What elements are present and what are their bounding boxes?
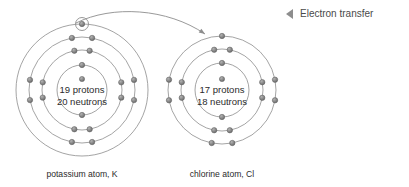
electron-potassium-shell3-2 [89,35,94,40]
nucleus-dot-chlorine [219,76,224,81]
nucleus-dot-potassium [79,76,84,81]
legend-label: Electron transfer [300,9,373,19]
electron-chlorine-shell3-6 [166,98,171,103]
electron-chlorine-shell1-2 [219,114,224,119]
electron-chlorine-shell3-1 [219,33,224,38]
electron-chlorine-shell3-2 [272,77,277,82]
diagram-canvas: 19 protons20 neutronspotassium atom, K17… [0,0,409,187]
legend-electron-transfer: Electron transfer [286,9,373,19]
left-triangle-icon [286,9,293,19]
electron-potassium-shell2-6 [72,127,77,132]
electron-chlorine-shell3-7 [166,77,171,82]
electron-potassium-shell2-3 [119,80,124,85]
electron-potassium-shell3-7 [27,97,32,102]
electron-transfer-arrow [76,12,205,34]
nucleus-protons-potassium: 19 protons [60,84,105,95]
electron-chlorine-shell1-1 [219,60,224,65]
electron-chlorine-shell3-4 [230,140,235,145]
electron-potassium-shell2-8 [40,80,45,85]
electron-potassium-shell3-3 [131,77,136,82]
caption-chlorine: chlorine atom, Cl [190,169,255,179]
electron-chlorine-shell2-1 [211,47,216,52]
electron-chlorine-shell2-2 [227,47,232,52]
electron-chlorine-shell3-3 [272,98,277,103]
electron-chlorine-shell3-5 [209,140,214,145]
electron-potassium-shell3-1 [69,35,74,40]
electron-transfer-diagram: 19 protons20 neutronspotassium atom, K17… [0,0,409,187]
electron-chlorine-shell2-4 [260,95,265,100]
electron-potassium-shell1-2 [79,112,84,117]
electron-chlorine-shell2-3 [260,79,265,84]
nucleus-neutrons-potassium: 20 neutrons [57,96,107,107]
electron-potassium-shell2-4 [119,95,124,100]
electron-potassium-shell2-7 [40,95,45,100]
electron-chlorine-shell2-5 [227,128,232,133]
electron-chlorine-shell2-7 [179,95,184,100]
electron-potassium-shell4-1 [79,21,84,26]
nucleus-protons-chlorine: 17 protons [200,84,245,95]
labels-layer: 19 protons20 neutronspotassium atom, K17… [46,84,254,179]
electron-chlorine-shell2-8 [179,79,184,84]
electron-potassium-shell2-2 [87,48,92,53]
electron-potassium-shell3-8 [27,77,32,82]
electron-chlorine-shell2-6 [211,128,216,133]
caption-potassium: potassium atom, K [46,169,117,179]
electron-potassium-shell3-6 [69,139,74,144]
electron-potassium-shell1-1 [79,62,84,67]
electron-potassium-shell3-4 [131,97,136,102]
electron-potassium-shell2-5 [87,127,92,132]
electron-potassium-shell2-1 [72,48,77,53]
nucleus-neutrons-chlorine: 18 neutrons [197,96,247,107]
electron-potassium-shell3-5 [89,139,94,144]
